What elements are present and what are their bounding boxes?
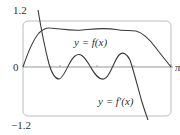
y-min-label: −1.2 xyxy=(11,120,31,131)
f-curve-label: y = f(x) xyxy=(74,37,107,48)
y-zero-label: 0 xyxy=(13,62,19,73)
fprime-curve-label: y = f′(x) xyxy=(98,96,133,107)
x-max-label: π xyxy=(175,62,180,73)
y-max-label: 1.2 xyxy=(13,5,27,16)
chart-canvas xyxy=(0,0,180,135)
